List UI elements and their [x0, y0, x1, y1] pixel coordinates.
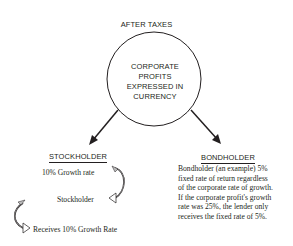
curved-arrow-icon — [15, 200, 30, 233]
bond-line: receives the fixed rate of 5%. — [178, 212, 291, 222]
curved-arrow-icon — [109, 166, 124, 203]
center-line: CURRENCY — [105, 92, 205, 102]
bond-line: of the corporate rate of growth. — [178, 183, 291, 193]
stockholder-receives: Receives 10% Growth Rate — [33, 225, 117, 234]
bondholder-heading-text: BONDHOLDER — [201, 153, 255, 164]
center-line: PROFITS — [105, 72, 205, 82]
bond-line: rate was 25%, the lender only — [178, 202, 291, 212]
bondholder-heading: BONDHOLDER — [188, 153, 268, 164]
center-line: CORPORATE — [105, 62, 205, 72]
bond-line: If the corporate profit's growth — [178, 193, 291, 203]
center-node-label: CORPORATE PROFITS EXPRESSED IN CURRENCY — [105, 62, 205, 102]
arrow-to-stockholder — [93, 110, 118, 140]
diagram-title: AFTER TAXES — [0, 20, 293, 29]
stockholder-heading: STOCKHOLDER — [48, 152, 108, 163]
stockholder-sub: Stockholder — [57, 195, 94, 204]
bond-line: fixed rate of return regardless — [178, 174, 291, 184]
bondholder-description: Bondholder (an example) 5% fixed rate of… — [178, 164, 291, 222]
stockholder-heading-text: STOCKHOLDER — [49, 152, 107, 163]
arrow-to-bondholder — [191, 110, 217, 139]
center-line: EXPRESSED IN — [105, 82, 205, 92]
stockholder-rate: 10% Growth rate — [42, 168, 94, 177]
bond-line: Bondholder (an example) 5% — [178, 164, 291, 174]
